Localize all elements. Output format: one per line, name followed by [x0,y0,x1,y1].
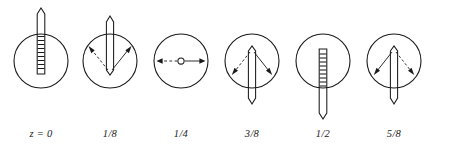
circle-outline [367,34,421,88]
panel-1-2: 1/2 [296,34,350,139]
circle-outline [225,34,279,88]
spin-vector-up-arrow [106,16,113,75]
center-point-marker [178,58,184,64]
projection-arrow-lower-right [254,52,272,75]
spin-orientation-diagram: z = 0 1/8 [0,0,453,152]
panel-1-4: 1/4 [154,34,208,139]
panel-label-5: 5/8 [387,128,402,139]
panel-z0: z = 0 [14,8,68,139]
projection-arrow-lower-right [396,52,414,75]
circle-outline [83,34,137,88]
spin-vector-down-arrow [319,49,327,119]
spin-vector-down-arrow [248,46,255,104]
panel-5-8: 5/8 [367,34,421,139]
panel-1-8: 1/8 [83,16,137,139]
panel-3-8: 3/8 [225,34,279,139]
shaft-dash-marks [38,37,45,69]
projection-arrow-upper-right [112,46,132,70]
panel-label-1: 1/8 [103,128,118,139]
projection-arrow-lower-left [374,52,392,75]
panel-label-2: 1/4 [174,128,189,139]
projection-arrow-lower-left [232,52,250,75]
spin-vector-down-arrow [390,46,397,104]
shaft-dash-marks [320,54,327,86]
projection-arrow-right [185,58,206,63]
circle-outline [296,34,350,88]
panel-label-3: 3/8 [244,128,260,139]
panel-label-4: 1/2 [316,128,331,139]
figure-container: z = 0 1/8 [0,0,453,152]
projection-arrow-upper-left [89,46,109,70]
panel-label-0: z = 0 [28,128,53,139]
projection-arrow-left [157,58,178,63]
